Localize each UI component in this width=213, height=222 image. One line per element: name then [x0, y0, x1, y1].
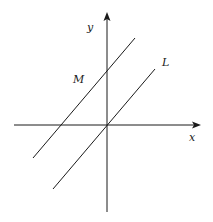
line-l — [53, 69, 155, 189]
line-l-label: L — [161, 56, 169, 69]
line-m — [33, 38, 135, 158]
line-m-label: M — [72, 73, 85, 86]
y-axis-label: y — [86, 21, 94, 34]
x-axis-label: x — [189, 131, 196, 144]
y-axis — [104, 12, 111, 212]
coordinate-diagram: y x L M — [0, 0, 213, 222]
